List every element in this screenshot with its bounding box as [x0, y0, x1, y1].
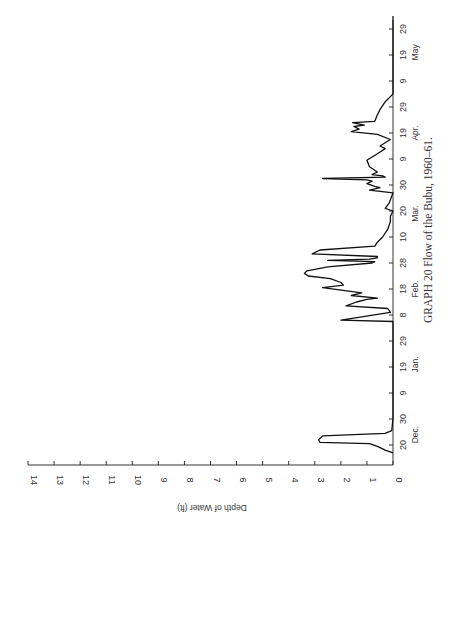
date-tick-label: 9 — [398, 390, 408, 395]
month-label: May — [410, 44, 420, 61]
date-tick-label: 29 — [398, 102, 408, 112]
date-tick-label: 29 — [398, 336, 408, 346]
graph-caption: GRAPH 20 Flow of the Bubu, 1960–61. — [422, 137, 435, 323]
depth-series-line — [304, 16, 393, 453]
date-axis-ticks: 203091929818281020309192991929 — [389, 24, 408, 450]
date-tick-label: 28 — [398, 258, 408, 268]
date-tick-label: 19 — [398, 362, 408, 372]
date-tick-label: 20 — [398, 440, 408, 450]
month-label: Feb. — [410, 280, 420, 297]
depth-tick-label: 0 — [394, 477, 404, 482]
depth-tick-label: 6 — [238, 477, 248, 482]
depth-tick-label: 1 — [368, 477, 378, 482]
depth-tick-label: 5 — [264, 477, 274, 482]
depth-tick-label: 9 — [159, 477, 169, 482]
date-tick-label: 20 — [398, 206, 408, 216]
depth-tick-label: 8 — [185, 477, 195, 482]
date-tick-label: 29 — [398, 24, 408, 34]
month-label: Apr. — [410, 125, 420, 140]
date-tick-label: 10 — [398, 232, 408, 242]
month-label: Jan. — [410, 356, 420, 372]
date-tick-label: 19 — [398, 128, 408, 138]
depth-tick-label: 13 — [55, 475, 65, 485]
date-tick-label: 19 — [398, 50, 408, 60]
date-tick-label: 18 — [398, 284, 408, 294]
date-tick-label: 30 — [398, 180, 408, 190]
depth-tick-label: 4 — [290, 477, 300, 482]
date-tick-label: 9 — [398, 78, 408, 83]
depth-tick-label: 14 — [29, 475, 39, 485]
depth-tick-label: 11 — [107, 475, 117, 484]
date-tick-label: 9 — [398, 156, 408, 161]
month-label: Mar. — [410, 205, 420, 222]
depth-axis-title: Depth of Water (ft) — [177, 503, 247, 513]
chart: 01234567891011121314 Depth of Water (ft)… — [0, 0, 465, 624]
month-label: Dec. — [410, 426, 420, 443]
date-tick-label: 30 — [398, 414, 408, 424]
depth-tick-label: 12 — [81, 475, 91, 485]
depth-tick-label: 3 — [316, 477, 326, 482]
depth-tick-label: 2 — [342, 477, 352, 482]
depth-tick-label: 7 — [212, 477, 222, 482]
month-labels: Dec.Jan.Feb.Mar.Apr.May — [410, 44, 420, 444]
depth-tick-label: 10 — [133, 475, 143, 485]
date-tick-label: 8 — [398, 312, 408, 317]
